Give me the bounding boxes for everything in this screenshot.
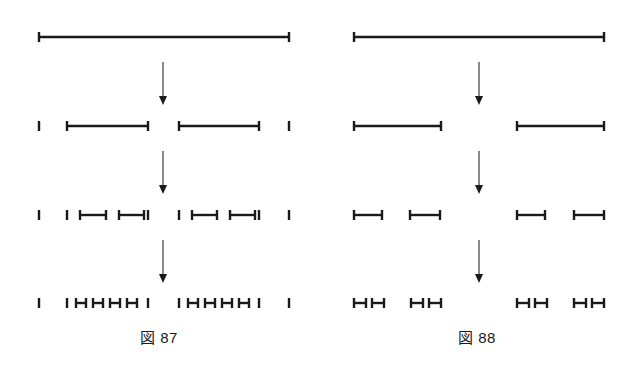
- stage-row-2: [39, 121, 289, 131]
- figure-root: 図 87 図 88: [0, 0, 636, 370]
- down-arrow-2: [475, 151, 483, 194]
- figure-caption-88: 図 88: [318, 326, 636, 347]
- arrow-head-icon: [159, 185, 167, 194]
- figure-caption-87: 図 87: [0, 326, 318, 347]
- cantor-construction-diagram-88: [318, 0, 636, 340]
- arrow-head-icon: [159, 274, 167, 283]
- figure-panel-88: 図 88: [318, 0, 636, 370]
- stage-row-2: [354, 121, 604, 131]
- down-arrow-2: [159, 151, 167, 194]
- down-arrow-1: [159, 62, 167, 105]
- stage-row-1: [39, 32, 289, 42]
- stage-row-4: [354, 298, 604, 308]
- stage-row-3: [354, 210, 604, 220]
- arrow-head-icon: [475, 96, 483, 105]
- down-arrow-3: [159, 240, 167, 283]
- stage-row-4: [39, 298, 289, 308]
- figure-panel-87: 図 87: [0, 0, 318, 370]
- arrow-head-icon: [475, 185, 483, 194]
- arrow-head-icon: [159, 96, 167, 105]
- arrow-head-icon: [475, 274, 483, 283]
- stage-row-3: [39, 210, 289, 220]
- cantor-construction-diagram-87: [0, 0, 318, 340]
- stage-row-1: [354, 32, 604, 42]
- down-arrow-3: [475, 240, 483, 283]
- down-arrow-1: [475, 62, 483, 105]
